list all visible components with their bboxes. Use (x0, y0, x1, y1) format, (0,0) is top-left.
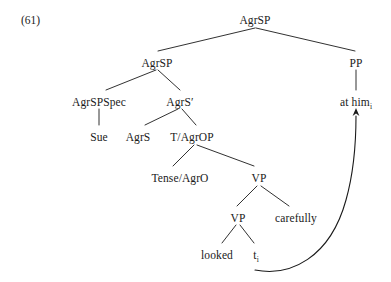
node-agrspspec: AgrSPSpec (72, 96, 126, 108)
node-label: AgrS′ (166, 96, 193, 108)
node-label: AgrS (126, 131, 151, 143)
branch-root-to-pp (256, 28, 355, 51)
branch-tagrop-to-tense (173, 145, 194, 166)
node-vp-inner: VP (231, 212, 246, 224)
node-label: Tense/AgrO (151, 172, 208, 184)
branch-vpouter-to-carefully (261, 186, 289, 206)
node-agrs: AgrS (126, 131, 151, 143)
node-label: Sue (90, 131, 108, 143)
node-at-him: at himi (340, 96, 372, 108)
movement-arrowhead-icon (353, 108, 360, 116)
node-sue: Sue (90, 131, 108, 143)
node-root-agrsp: AgrSP (239, 14, 270, 26)
node-label: carefully (275, 212, 317, 224)
node-looked: looked (201, 249, 233, 261)
node-label: looked (201, 249, 233, 261)
node-t-agrop: T/AgrOP (170, 131, 214, 143)
node-label: PP (350, 57, 363, 69)
movement-arrow-curve (255, 116, 356, 271)
node-label: AgrSPSpec (72, 96, 126, 108)
branch-tagrop-to-vp (197, 145, 254, 166)
node-subscript: i (370, 102, 372, 111)
node-tense-agro: Tense/AgrO (151, 172, 208, 184)
node-label: VP (252, 172, 267, 184)
node-subscript: i (257, 255, 259, 264)
node-label: VP (231, 212, 246, 224)
node-label: AgrSP (141, 57, 172, 69)
branch-agrsbar-to-agrs (145, 109, 178, 125)
branch-vpouter-to-vpinner (237, 186, 257, 206)
node-agrs-bar: AgrS′ (166, 96, 193, 108)
syntax-tree-figure: (61) AgrSP AgrSP PP AgrSPSpec (0, 0, 391, 282)
node-label: at him (340, 96, 370, 108)
node-label: T/AgrOP (170, 131, 214, 143)
node-trace: ti (253, 249, 258, 261)
branch-agrsbar-to-tagrop (182, 109, 196, 125)
branch-root-to-agrsp2 (158, 28, 255, 51)
node-vp-outer: VP (252, 172, 267, 184)
node-carefully: carefully (275, 212, 317, 224)
branch-agrsp2-to-agrsbar (158, 70, 180, 90)
node-label: AgrSP (239, 14, 270, 26)
branch-vpinner-to-looked (222, 225, 236, 243)
node-agrsp-2: AgrSP (141, 57, 172, 69)
branch-agrsp2-to-spec (106, 70, 156, 90)
node-label: t (253, 249, 256, 261)
branch-vpinner-to-trace (240, 225, 254, 243)
node-pp: PP (350, 57, 363, 69)
